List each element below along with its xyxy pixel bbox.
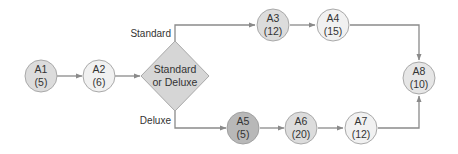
node-a1-label: A1 xyxy=(35,63,48,75)
decision-line1: Standard xyxy=(154,63,197,75)
node-a3-label: A3 xyxy=(267,12,280,24)
node-a8: A8 (10) xyxy=(403,62,435,94)
edge-decision-a5 xyxy=(175,111,226,128)
edge-a7-a8 xyxy=(378,96,419,128)
node-a1-duration: (5) xyxy=(35,76,48,88)
edge-a4-a8 xyxy=(350,25,419,60)
node-a5: A5 (5) xyxy=(227,112,259,144)
node-a6: A6 (20) xyxy=(285,112,317,144)
node-a7: A7 (12) xyxy=(345,112,377,144)
node-a1: A1 (5) xyxy=(25,60,57,92)
node-a7-duration: (12) xyxy=(352,128,371,140)
branch-label-deluxe: Deluxe xyxy=(140,115,172,126)
node-a8-label: A8 xyxy=(413,65,426,77)
activity-network-diagram: Standard Deluxe Standard or Deluxe A1 (5… xyxy=(0,0,458,154)
decision-node: Standard or Deluxe xyxy=(141,41,209,111)
node-a2: A2 (6) xyxy=(83,60,115,92)
node-a4-label: A4 xyxy=(327,12,340,24)
decision-line2: or Deluxe xyxy=(153,76,198,88)
node-a2-label: A2 xyxy=(93,63,106,75)
edge-decision-a3 xyxy=(175,25,255,41)
node-a6-label: A6 xyxy=(295,115,308,127)
node-a3: A3 (12) xyxy=(257,9,289,41)
node-a5-label: A5 xyxy=(237,115,250,127)
node-a8-duration: (10) xyxy=(410,78,429,90)
node-a4: A4 (15) xyxy=(317,9,349,41)
node-a4-duration: (15) xyxy=(324,25,343,37)
node-a6-duration: (20) xyxy=(292,128,311,140)
branch-label-standard: Standard xyxy=(130,28,171,39)
node-a5-duration: (5) xyxy=(237,128,250,140)
node-a3-duration: (12) xyxy=(264,25,283,37)
node-a2-duration: (6) xyxy=(93,76,106,88)
node-a7-label: A7 xyxy=(355,115,368,127)
